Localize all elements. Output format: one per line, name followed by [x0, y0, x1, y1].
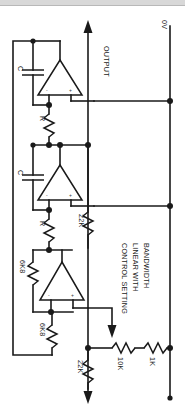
schematic-diagram: OUTPUT 0V C [0, 0, 185, 419]
annotation-line-3: BANDWIDTH [142, 243, 151, 288]
opamp-stage-3: 6K8 - + [18, 247, 88, 315]
control-wiper-feed [88, 308, 117, 338]
opamp-a2-minus-pin: - [46, 192, 48, 198]
control-bus [85, 343, 173, 353]
capacitor-c2-label: C [16, 170, 25, 175]
resistor-6k8-top-label: 6K8 [18, 260, 27, 273]
opamp-a2-symbol [38, 145, 94, 210]
zero-volt-rail [167, 26, 172, 401]
resistor-r2-label: R [38, 221, 47, 226]
zero-volt-rail-label: 0V [160, 20, 169, 29]
resistor-6k8-top [28, 250, 38, 312]
opamp-a2-plus-pin: + [69, 192, 72, 198]
opamp-stage-1: C - + [16, 38, 173, 108]
resistor-r2 [44, 210, 54, 250]
resistor-1k [144, 343, 167, 353]
annotation-line-2: LINEAR WITH [131, 243, 140, 292]
resistor-r1 [44, 105, 54, 145]
schematic-canvas: OUTPUT 0V C [0, 0, 185, 419]
opamp-a3-plus-pin: + [71, 292, 74, 298]
opamp-a3-symbol [40, 250, 88, 312]
annotation-line-1: CONTROL SETTING [120, 243, 129, 314]
resistor-22k-bottom [83, 348, 93, 404]
resistor-22k-bottom-label: 22K [76, 360, 85, 373]
opamp-a1-plus-pin: + [69, 87, 72, 93]
control-setting-annotation: CONTROL SETTING LINEAR WITH BANDWIDTH [120, 243, 151, 314]
opamp-stage-2: C - + [16, 142, 173, 213]
potentiometer-10k-label: 10K [116, 357, 125, 370]
resistor-r1-label: R [38, 116, 47, 121]
resistor-1k-label: 1K [148, 357, 157, 366]
potentiometer-10k [112, 343, 135, 353]
resistor-22k-mid-label: 22K [77, 214, 86, 227]
capacitor-c1-label: C [16, 66, 25, 71]
opamp-a1-symbol [38, 41, 94, 105]
output-rail-label: OUTPUT [102, 46, 111, 77]
resistor-6k8-bottom [47, 312, 57, 355]
opamp-a1-minus-pin: - [46, 87, 48, 93]
resistor-6k8-bottom-label: 6K8 [38, 323, 47, 336]
opamp-a3-minus-pin: - [48, 292, 50, 298]
